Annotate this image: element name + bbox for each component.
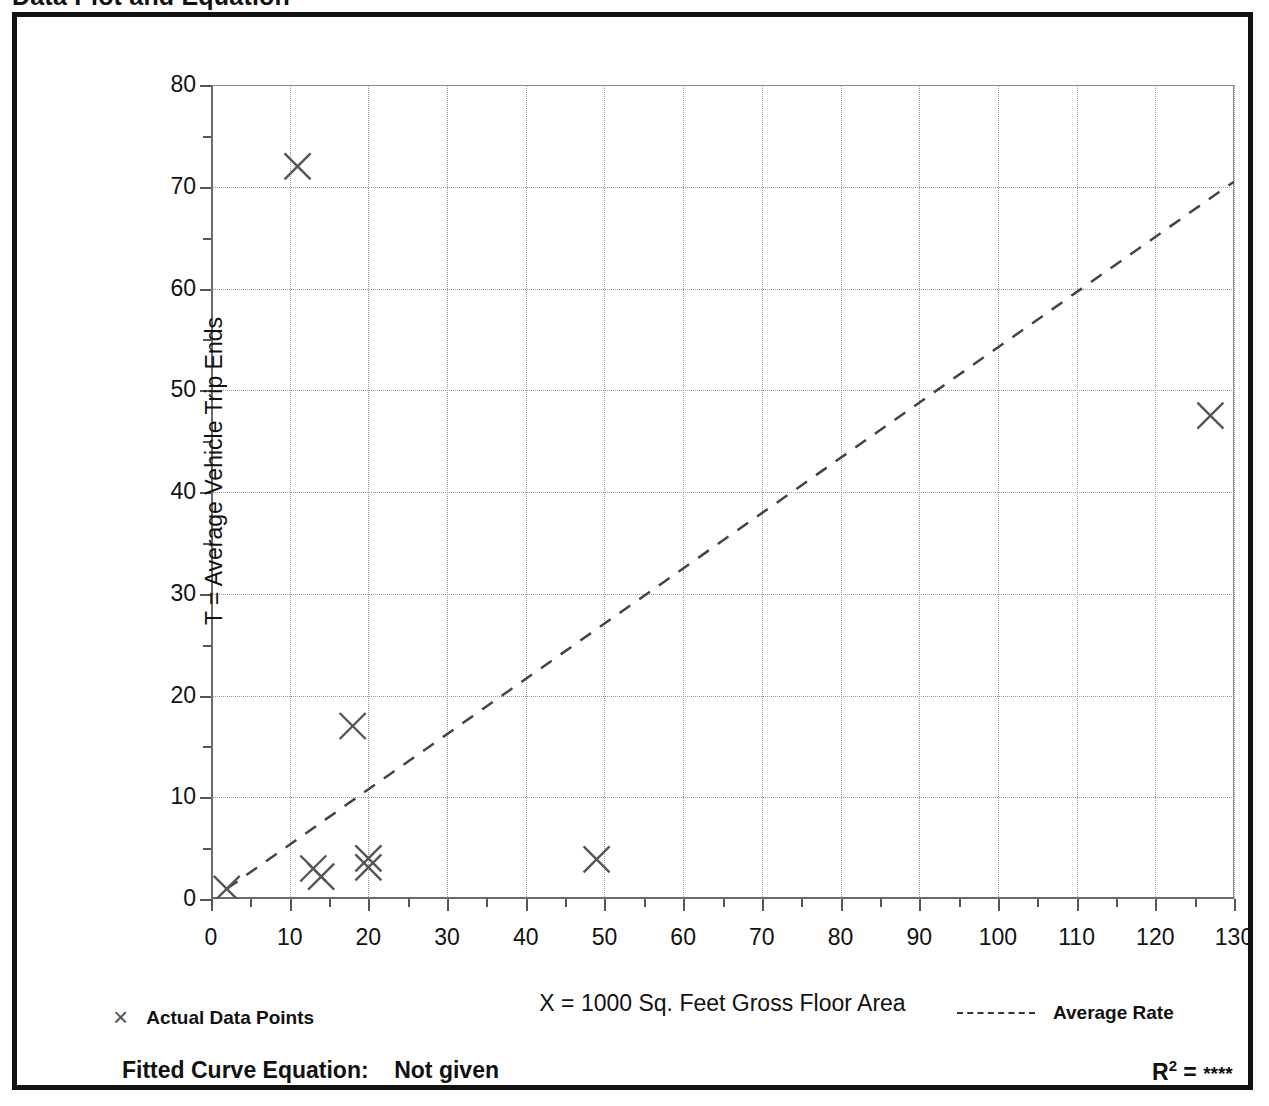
- x-tick-minor: [644, 899, 646, 907]
- y-tick-label: 60: [136, 275, 196, 302]
- y-tick-label: 20: [136, 682, 196, 709]
- x-tick-minor: [1037, 899, 1039, 907]
- gridline-horizontal: [211, 187, 1234, 188]
- y-tick-label: 50: [136, 376, 196, 403]
- x-tick-label: 20: [333, 924, 403, 951]
- x-tick-label: 50: [569, 924, 639, 951]
- x-tick-major: [368, 899, 370, 911]
- y-tick-label: 70: [136, 173, 196, 200]
- x-tick-major: [526, 899, 528, 911]
- gridline-horizontal: [211, 390, 1234, 391]
- fitted-curve-equation-value: Not given: [394, 1057, 499, 1083]
- x-tick-major: [1234, 899, 1236, 911]
- gridline-horizontal: [211, 797, 1234, 798]
- chart-frame: 0102030405060708090100110120130010203040…: [12, 12, 1253, 1090]
- x-tick-major: [211, 899, 213, 911]
- x-tick-minor: [250, 899, 252, 907]
- x-tick-major: [762, 899, 764, 911]
- x-tick-label: 60: [648, 924, 718, 951]
- gridline-horizontal: [211, 289, 1234, 290]
- y-tick-minor: [203, 238, 211, 240]
- x-tick-label: 10: [255, 924, 325, 951]
- x-tick-minor: [408, 899, 410, 907]
- y-tick-label: 30: [136, 580, 196, 607]
- x-tick-major: [1077, 899, 1079, 911]
- x-tick-label: 100: [963, 924, 1033, 951]
- x-tick-label: 90: [884, 924, 954, 951]
- legend-actual-data-points: × Actual Data Points: [113, 1002, 314, 1033]
- x-tick-major: [841, 899, 843, 911]
- x-tick-major: [604, 899, 606, 911]
- fitted-curve-equation-label: Fitted Curve Equation:: [122, 1057, 369, 1083]
- y-tick-minor: [203, 645, 211, 647]
- r-squared-stars: ****: [1203, 1063, 1233, 1084]
- r-squared-equals: =: [1177, 1059, 1203, 1085]
- page-title: Data Plot and Equation: [12, 0, 290, 11]
- x-tick-major: [683, 899, 685, 911]
- y-tick-minor: [203, 746, 211, 748]
- x-tick-label: 0: [176, 924, 246, 951]
- x-tick-major: [998, 899, 1000, 911]
- x-tick-label: 30: [412, 924, 482, 951]
- y-tick-minor: [203, 136, 211, 138]
- gridline-horizontal: [211, 594, 1234, 595]
- y-tick-minor: [203, 848, 211, 850]
- x-tick-label: 110: [1042, 924, 1112, 951]
- x-tick-major: [1155, 899, 1157, 911]
- x-tick-major: [290, 899, 292, 911]
- data-point-marker: [285, 153, 311, 179]
- x-tick-label: 80: [806, 924, 876, 951]
- x-tick-label: 70: [727, 924, 797, 951]
- x-tick-minor: [565, 899, 567, 907]
- legend-average-rate: Average Rate: [957, 1002, 1174, 1024]
- x-tick-label: 40: [491, 924, 561, 951]
- y-tick-major: [200, 187, 211, 189]
- x-marker-icon: ×: [113, 1002, 128, 1033]
- x-tick-major: [919, 899, 921, 911]
- data-point-marker: [300, 855, 326, 881]
- y-axis-title: T = Average Vehicle Trip Ends: [201, 317, 228, 625]
- y-tick-label: 0: [136, 885, 196, 912]
- y-tick-label: 80: [136, 71, 196, 98]
- x-tick-label: 130: [1199, 924, 1269, 951]
- data-point-marker: [1197, 403, 1223, 429]
- gridline-vertical: [1234, 85, 1235, 899]
- y-tick-major: [200, 696, 211, 698]
- fitted-curve-equation: Fitted Curve Equation: Not given: [122, 1057, 499, 1084]
- gridline-horizontal: [211, 696, 1234, 697]
- x-tick-minor: [801, 899, 803, 907]
- x-tick-minor: [1195, 899, 1197, 907]
- dashed-line-icon: [957, 1012, 1035, 1014]
- y-tick-major: [200, 797, 211, 799]
- x-tick-minor: [880, 899, 882, 907]
- x-tick-minor: [959, 899, 961, 907]
- y-tick-label: 10: [136, 783, 196, 810]
- legend-actual-data-points-label: Actual Data Points: [146, 1007, 314, 1029]
- r-squared-base: R: [1152, 1059, 1169, 1085]
- plot-top-border: [211, 85, 1234, 86]
- legend-average-rate-label: Average Rate: [1053, 1002, 1174, 1024]
- y-tick-major: [200, 899, 211, 901]
- y-tick-major: [200, 289, 211, 291]
- x-tick-major: [447, 899, 449, 911]
- x-tick-minor: [1116, 899, 1118, 907]
- x-tick-minor: [723, 899, 725, 907]
- x-tick-minor: [329, 899, 331, 907]
- plot-area: 0102030405060708090100110120130010203040…: [211, 85, 1234, 899]
- y-tick-major: [200, 85, 211, 87]
- data-point-marker: [340, 713, 366, 739]
- r-squared-exponent: 2: [1169, 1057, 1177, 1074]
- y-tick-label: 40: [136, 478, 196, 505]
- gridline-horizontal: [211, 492, 1234, 493]
- data-point-marker: [308, 864, 334, 890]
- data-point-marker: [584, 846, 610, 872]
- x-tick-minor: [486, 899, 488, 907]
- x-tick-label: 120: [1120, 924, 1190, 951]
- data-point-marker: [214, 876, 240, 899]
- r-squared-value: R2 = ****: [1152, 1057, 1233, 1086]
